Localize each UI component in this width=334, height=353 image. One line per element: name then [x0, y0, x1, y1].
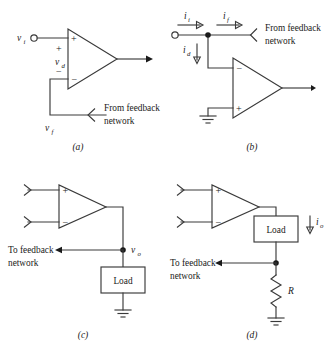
- label-vd-sub-a: d: [62, 62, 66, 69]
- label-plus-vd-a: +: [56, 43, 62, 54]
- label-plus-input-d: +: [216, 185, 222, 196]
- panel-d: Load i o R + − To feedback netw: [170, 185, 324, 342]
- label-minus-input-b: −: [237, 63, 243, 74]
- panel-label-b: (b): [246, 142, 257, 153]
- note-feedback-line2-d: network: [170, 271, 201, 281]
- label-if-b: i: [223, 11, 226, 21]
- note-feedback-line1-d: To feedback: [170, 258, 216, 268]
- output-arrowhead-b: [311, 85, 316, 91]
- label-id-sub-b: d: [187, 50, 191, 57]
- output-wire-c: [106, 207, 123, 250]
- label-ii-sub-b: i: [188, 16, 190, 23]
- label-vi-a: v: [17, 33, 22, 43]
- label-minus-input-d: −: [216, 217, 222, 228]
- label-io-d: i: [316, 217, 319, 227]
- label-vo-c: v: [131, 245, 136, 255]
- output-wire-d: [259, 207, 276, 216]
- note-feedback-line1-a: From feedback: [104, 103, 160, 113]
- label-minus-vd-a: −: [56, 66, 62, 77]
- panel-a: v i + − + v d − v f From feedback networ…: [17, 29, 160, 153]
- label-minus-input-c: −: [63, 217, 69, 228]
- node-to-inverting-wire-b: [208, 35, 233, 68]
- label-vf-a: v: [45, 123, 50, 133]
- label-minus-input-a: −: [72, 74, 78, 85]
- label-if-sub-b: f: [227, 16, 230, 23]
- label-id-b: i: [183, 45, 186, 55]
- label-vf-sub-a: f: [52, 128, 55, 135]
- note-feedback-line1-b: From feedback: [265, 23, 321, 33]
- resistor-symbol-d: [271, 275, 281, 307]
- ground-symbol-d: [268, 318, 284, 325]
- label-vo-sub-c: o: [138, 250, 142, 257]
- input-terminal-circle-b: [172, 32, 178, 38]
- label-vi-sub-a: i: [24, 38, 26, 45]
- ground-wire-b: [208, 108, 233, 116]
- label-plus-input-c: +: [63, 185, 69, 196]
- note-feedback-line1-c: To feedback: [8, 245, 54, 255]
- label-plus-input-a: +: [71, 33, 77, 44]
- load-label-c: Load: [113, 276, 132, 286]
- panel-label-c: (c): [78, 330, 89, 341]
- feedback-arrowhead-d: [215, 260, 222, 266]
- label-plus-input-b: +: [236, 103, 242, 114]
- note-feedback-line2-a: network: [104, 116, 135, 126]
- note-feedback-line2-c: network: [8, 258, 39, 268]
- input-terminal-circle-a: [31, 35, 37, 41]
- label-ii-b: i: [184, 11, 187, 21]
- feedback-arrowhead-c: [55, 247, 62, 253]
- panel-label-a: (a): [72, 142, 83, 153]
- summing-node-dot-b: [205, 32, 211, 38]
- ground-symbol-b: [200, 116, 216, 123]
- label-resistor-d: R: [287, 286, 294, 296]
- load-label-d: Load: [266, 225, 285, 235]
- feedback-wire-a: [50, 79, 106, 115]
- label-io-sub-d: o: [320, 222, 324, 229]
- output-arrowhead-a: [146, 56, 153, 63]
- panel-c: Load + − v o To feedback network (c): [8, 185, 145, 342]
- panel-b: i i i f i d − + From feedback network (b…: [172, 11, 322, 153]
- note-feedback-line2-b: network: [265, 36, 296, 46]
- ground-symbol-c: [115, 310, 131, 317]
- opamp-feedback-figure: v i + − + v d − v f From feedback networ…: [0, 0, 334, 353]
- panel-label-d: (d): [246, 330, 257, 341]
